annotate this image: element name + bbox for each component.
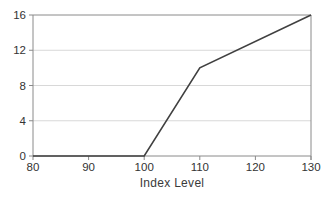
y-tick-label: 0 [20,150,26,162]
x-tick-label: 90 [82,161,95,173]
x-tick-label: 130 [301,161,320,173]
y-tick-label: 4 [20,115,27,127]
y-tick-label: 8 [20,80,26,92]
x-axis-title: Index Level [33,176,311,190]
y-tick-label: 16 [13,9,26,21]
x-tick-label: 80 [27,161,40,173]
y-tick-label: 12 [13,44,26,56]
x-tick-label: 100 [135,161,154,173]
x-tick-label: 110 [191,161,209,173]
line-chart: 04812168090100110120130 Index Level [0,0,334,197]
x-tick-label: 120 [246,161,265,173]
line-chart-canvas: 04812168090100110120130 [0,0,334,197]
